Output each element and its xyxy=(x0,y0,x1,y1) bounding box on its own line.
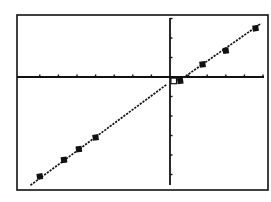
line-segment xyxy=(31,85,167,185)
filled-square-marker xyxy=(61,156,68,163)
filled-square-marker xyxy=(75,146,82,153)
filled-square-marker xyxy=(222,47,229,54)
plot-frame xyxy=(17,15,268,190)
filled-square-marker xyxy=(177,78,184,85)
filled-square-marker xyxy=(252,25,259,32)
open-square-marker xyxy=(171,78,177,84)
filled-square-marker xyxy=(199,61,206,68)
filled-square-marker xyxy=(92,134,99,141)
axes xyxy=(17,18,264,185)
filled-square-marker xyxy=(36,173,43,180)
graph-screen xyxy=(0,0,271,202)
